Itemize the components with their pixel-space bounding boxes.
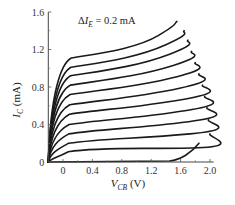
x-tick-label: 1.2 (145, 165, 158, 176)
x-tick-label: 1.6 (174, 165, 187, 176)
axes (48, 12, 213, 162)
curve-10 (48, 120, 218, 162)
y-tick-label: 1.6 (32, 7, 45, 18)
y-tick-label: 1.2 (32, 44, 45, 55)
y-tick-label: 0 (39, 157, 44, 168)
x-tick-label: 0 (61, 165, 66, 176)
characteristic-curves (48, 21, 221, 162)
y-axis-label: IC (mA) (10, 82, 25, 119)
curve-9 (48, 108, 216, 162)
x-tick-label: 0.4 (86, 165, 99, 176)
x-axis-label: VCB (V) (111, 177, 146, 192)
y-tick-label: 0.4 (32, 119, 45, 130)
curve-0 (48, 143, 199, 162)
x-tick-label: 2.0 (204, 165, 217, 176)
delta-ie-annotation: ΔIE = 0.2 mA (78, 15, 136, 29)
x-tick-label: 0.8 (116, 165, 129, 176)
chart: 00.40.81.21.62.000.40.81.21.6 ΔIE = 0.2 … (0, 0, 235, 205)
y-tick-label: 0.8 (32, 82, 45, 93)
